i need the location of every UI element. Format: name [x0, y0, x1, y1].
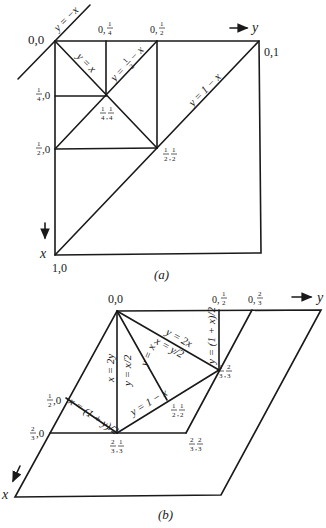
svg-text:1: 1	[108, 20, 112, 28]
svg-text:2: 2	[111, 438, 115, 446]
svg-text:4: 4	[109, 114, 113, 122]
svg-text:2: 2	[37, 149, 41, 157]
svg-text:,0: ,0	[42, 143, 51, 155]
svg-text:0,: 0,	[248, 294, 256, 305]
svg-text:3: 3	[198, 445, 202, 453]
label-1-0: 1,0	[52, 261, 67, 275]
label-half-0: 1 2 ,0	[36, 140, 51, 157]
svg-text:1: 1	[222, 290, 226, 298]
svg-text:2: 2	[180, 411, 184, 419]
label-two-thirds-0: 2 3 ,0	[30, 425, 45, 442]
label-two-thirds-two-thirds: 2 3 , 2 3	[189, 436, 203, 453]
label-y-eq-one-minus-x: y = 1 − x	[185, 70, 223, 109]
label-x-eq-2y: x = 2y	[104, 354, 116, 383]
svg-text:1: 1	[172, 146, 176, 154]
svg-text:2: 2	[198, 436, 202, 444]
svg-text:3: 3	[111, 447, 115, 455]
svg-text:2: 2	[48, 401, 52, 409]
svg-text:,: ,	[116, 445, 118, 454]
svg-text:0,: 0,	[212, 294, 220, 305]
label-y-eq-x-half: y = x/2	[121, 354, 133, 387]
svg-text:4: 4	[101, 114, 105, 122]
svg-text:1: 1	[109, 105, 113, 113]
label-quarter-0: 1 4 ,0	[36, 86, 51, 103]
label-0-two-thirds: 0, 2 3	[248, 290, 263, 307]
svg-text:,: ,	[169, 153, 171, 162]
label-half-half: 1 2 , 1 2	[163, 146, 177, 163]
svg-text:2: 2	[222, 299, 226, 307]
caption-b: (b)	[158, 507, 173, 522]
svg-text:,: ,	[106, 112, 108, 121]
svg-text:2: 2	[160, 29, 164, 37]
label-two-thirds-third: 2 3 , 1 3	[110, 438, 124, 455]
svg-text:0,: 0,	[98, 24, 106, 35]
label-0-quarter: 0, 1 4	[98, 20, 113, 37]
x-axis-label: x	[39, 246, 47, 261]
label-third-two-thirds: 1 3 , 2 3	[218, 363, 232, 380]
svg-text:4: 4	[37, 95, 41, 103]
svg-text:,: ,	[224, 370, 226, 379]
figure-canvas: y x 0,0 0, 1 4 0, 1 2 0,1 1 4 ,0 1 2	[0, 0, 326, 528]
svg-text:3: 3	[227, 372, 231, 380]
label-y-eq-half-minus-x: y = 1 2 − x	[106, 43, 149, 87]
svg-text:1: 1	[180, 402, 184, 410]
svg-text:1: 1	[37, 86, 41, 94]
svg-text:4: 4	[108, 29, 112, 37]
label-y-eq-x: y = x	[137, 342, 157, 369]
caption-a: (a)	[154, 267, 169, 282]
label-origin: 0,0	[108, 292, 123, 306]
label-half-0: 1 2 ,0	[47, 392, 62, 409]
svg-text:y =: y =	[107, 64, 127, 84]
svg-text:1: 1	[119, 438, 123, 446]
svg-text:3: 3	[190, 445, 194, 453]
svg-text:− x: − x	[127, 44, 146, 63]
line-x-half	[55, 148, 157, 149]
figure-b: y x 0,0 0, 1 2 0, 2 3 1 3 , 2 3 1	[1, 290, 324, 522]
svg-text:1: 1	[164, 146, 168, 154]
svg-text:1: 1	[101, 105, 105, 113]
svg-text:2: 2	[172, 155, 176, 163]
label-origin: 0,0	[28, 32, 44, 47]
svg-text:,0: ,0	[42, 89, 51, 101]
svg-text:,: ,	[177, 409, 179, 418]
svg-text:3: 3	[119, 447, 123, 455]
svg-text:,0: ,0	[36, 427, 45, 439]
svg-text:,: ,	[195, 443, 197, 452]
label-0-1: 0,1	[264, 45, 279, 59]
svg-text:,0: ,0	[53, 394, 62, 406]
svg-text:2: 2	[172, 411, 176, 419]
x-axis-arrow-icon	[13, 466, 20, 481]
svg-text:1: 1	[37, 140, 41, 148]
label-half-half: 1 2 , 1 2	[171, 402, 185, 419]
label-quarter-quarter: 1 4 , 1 4	[100, 105, 114, 122]
svg-text:2: 2	[258, 290, 262, 298]
svg-text:1: 1	[48, 392, 52, 400]
label-x-eq-one-plus-y-half: x = (1 + y)/2	[65, 394, 121, 437]
svg-text:1: 1	[172, 402, 176, 410]
svg-text:2: 2	[164, 155, 168, 163]
label-0-half: 0, 1 2	[150, 20, 165, 37]
label-y-eq-one-plus-x-half: y = (1 + x)/2	[205, 307, 218, 365]
y-axis-label: y	[315, 290, 324, 305]
svg-text:0,: 0,	[150, 24, 158, 35]
x-axis-label: x	[1, 487, 9, 502]
svg-text:3: 3	[31, 434, 35, 442]
svg-text:1: 1	[219, 363, 223, 371]
figure-a: y x 0,0 0, 1 4 0, 1 2 0,1 1 4 ,0 1 2	[18, 4, 279, 282]
svg-text:2: 2	[190, 436, 194, 444]
svg-text:2: 2	[227, 363, 231, 371]
svg-text:3: 3	[258, 299, 262, 307]
svg-text:2: 2	[31, 425, 35, 433]
svg-text:3: 3	[219, 372, 223, 380]
svg-text:1: 1	[160, 20, 164, 28]
y-axis-label: y	[250, 20, 259, 35]
label-y-eq-x: y = x	[74, 49, 99, 74]
label-0-half: 0, 1 2	[212, 290, 227, 307]
